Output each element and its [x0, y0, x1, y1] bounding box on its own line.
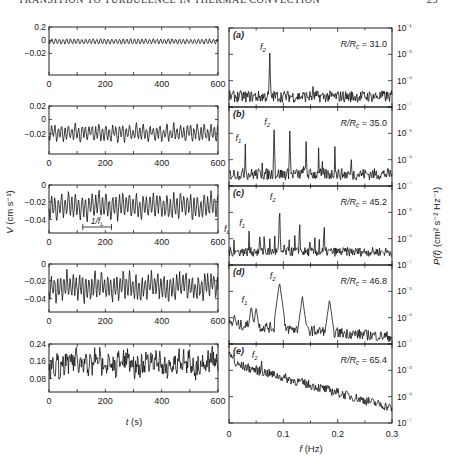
velocity-trace — [49, 346, 218, 380]
time-series-c: 02004006000−0.02−0.041/fL — [24, 180, 225, 247]
peak-label-f2: f2 — [252, 350, 259, 361]
x-axis-label-frequency: f (Hz) — [299, 443, 322, 454]
rayleigh-ratio: R/Rc = 31.0 — [340, 39, 387, 50]
y-tick-label: 10⁻⁵ — [397, 313, 412, 323]
rayleigh-ratio: R/Rc = 46.8 — [340, 276, 387, 287]
power-spectrum-trace — [229, 53, 392, 102]
rayleigh-ratio: R/Rc = 35.0 — [340, 118, 387, 129]
y-tick-label: 10⁻⁷ — [397, 102, 412, 112]
y-tick-label: −0.02 — [24, 276, 46, 286]
y-tick-label: 10⁻³ — [397, 49, 411, 59]
x-tick-label: 0.2 — [331, 429, 344, 439]
panel-label: (c) — [233, 188, 244, 198]
figure: 02004006000.20−0.0202004006000.020−0.020… — [0, 0, 450, 469]
x-tick-label: 400 — [154, 316, 169, 326]
x-axis-label-time: t (s) — [126, 416, 142, 427]
time-series-column: 02004006000.20−0.0202004006000.020−0.020… — [24, 22, 225, 406]
spectrum-column: 10⁻¹10⁻³10⁻⁵10⁻⁷f2(a)R/Rc = 31.010⁻³10⁻⁵… — [224, 23, 412, 428]
y-axis-label-power: P(f) (cm² s⁻² Hz⁻¹) — [431, 187, 442, 265]
y-tick-label: 0 — [41, 180, 46, 190]
y-tick-label: 10⁻⁷ — [397, 339, 412, 349]
x-tick-label: 0.3 — [386, 429, 399, 439]
y-tick-label: −0.04 — [24, 294, 46, 304]
time-series-b: 02004006000.020−0.02 — [24, 101, 225, 168]
peak-label-f2: f2 — [264, 117, 271, 128]
x-tick-label: 0.1 — [277, 429, 290, 439]
y-tick-label: 10⁻³ — [397, 207, 411, 217]
x-tick-label: 600 — [210, 396, 225, 406]
y-tick-label: 10⁻³ — [397, 365, 411, 375]
time-series-a: 02004006000.20−0.02 — [24, 22, 225, 89]
x-tick-label: 400 — [154, 79, 169, 89]
y-tick-label: 0 — [41, 259, 46, 269]
y-tick-label: 10⁻⁷ — [397, 418, 412, 428]
y-tick-label: 10⁻⁵ — [397, 392, 412, 402]
peak-label-f1: f1 — [235, 133, 241, 144]
x-tick-label: 200 — [98, 158, 113, 168]
peak-label-f1: f1 — [241, 295, 247, 306]
x-tick-label: 200 — [98, 79, 113, 89]
rayleigh-ratio: R/Rc = 65.4 — [340, 355, 387, 366]
y-tick-label: 0 — [41, 114, 46, 124]
x-tick-label: 600 — [210, 79, 225, 89]
peak-label-f2: f2 — [270, 271, 277, 282]
x-tick-label: 600 — [210, 158, 225, 168]
velocity-trace — [49, 269, 218, 303]
y-tick-label: 0.08 — [29, 374, 46, 384]
spectrum-b: 10⁻³10⁻⁵10⁻⁷f1f2(b)R/Rc = 35.0 — [229, 107, 412, 191]
y-tick-label: −0.02 — [24, 48, 46, 58]
spectrum-a: 10⁻¹10⁻³10⁻⁵10⁻⁷f2(a)R/Rc = 31.0 — [229, 23, 412, 112]
y-tick-label: 10⁻⁵ — [397, 76, 412, 86]
velocity-trace — [49, 123, 218, 143]
x-tick-label: 0 — [46, 316, 51, 326]
spectrum-e: 10⁻³10⁻⁵10⁻⁷f2(e)R/Rc = 65.4 — [229, 344, 412, 428]
x-tick-label: 200 — [98, 316, 113, 326]
y-tick-label: 0 — [41, 35, 46, 45]
peak-label-f2: f2 — [260, 42, 267, 53]
y-tick-label: 10⁻¹ — [397, 23, 411, 33]
x-tick-label: 0 — [46, 396, 51, 406]
x-tick-label: 400 — [154, 237, 169, 247]
y-tick-label: −0.02 — [24, 197, 46, 207]
power-spectrum-trace — [229, 130, 392, 180]
rayleigh-ratio: R/Rc = 45.2 — [340, 197, 387, 208]
power-spectrum-trace — [229, 213, 392, 256]
power-spectrum-trace — [229, 284, 392, 342]
panel-label: (e) — [233, 346, 244, 356]
velocity-trace — [49, 39, 218, 45]
spectrum-c: 10⁻³10⁻⁵10⁻⁷fLf1f2(c)R/Rc = 45.2 — [224, 186, 412, 270]
y-tick-label: 0.24 — [29, 339, 46, 349]
y-tick-label: 10⁻⁵ — [397, 234, 412, 244]
panel-label: (d) — [233, 267, 245, 277]
panel-label: (a) — [233, 30, 244, 40]
x-tick-label: 0 — [46, 237, 51, 247]
y-tick-label: −0.02 — [24, 129, 46, 139]
x-tick-label: 600 — [210, 316, 225, 326]
peak-label-f1: f1 — [239, 218, 245, 229]
y-tick-label: −0.04 — [24, 215, 46, 225]
time-series-e: 02004006000.240.160.08 — [29, 339, 225, 406]
x-tick-label: 600 — [210, 237, 225, 247]
y-tick-label: 10⁻⁷ — [397, 260, 412, 270]
velocity-trace — [49, 190, 218, 222]
y-tick-label: 10⁻³ — [397, 286, 411, 296]
x-tick-label: 0 — [226, 429, 231, 439]
time-series-d: 02004006000−0.02−0.04 — [24, 259, 225, 326]
panel-label: (b) — [233, 109, 245, 119]
x-tick-label: 200 — [98, 237, 113, 247]
y-tick-label: 0.02 — [29, 101, 46, 111]
x-tick-label: 400 — [154, 158, 169, 168]
spectrum-d: 10⁻³10⁻⁵10⁻⁷f1f2(d)R/Rc = 46.8 — [229, 265, 412, 349]
x-tick-label: 400 — [154, 396, 169, 406]
y-tick-label: 0.2 — [34, 22, 46, 32]
y-tick-label: 10⁻⁵ — [397, 155, 412, 165]
y-tick-label: 10⁻³ — [397, 128, 411, 138]
x-tick-label: 200 — [98, 396, 113, 406]
peak-label-f2: f2 — [270, 192, 277, 203]
svg-text:1/fL: 1/fL — [91, 216, 104, 227]
x-tick-label: 0 — [46, 79, 51, 89]
y-tick-label: 0.16 — [29, 356, 46, 366]
x-tick-label: 0 — [46, 158, 51, 168]
y-tick-label: 10⁻⁷ — [397, 181, 412, 191]
y-axis-label-velocity: V (cm s⁻¹) — [4, 190, 15, 234]
